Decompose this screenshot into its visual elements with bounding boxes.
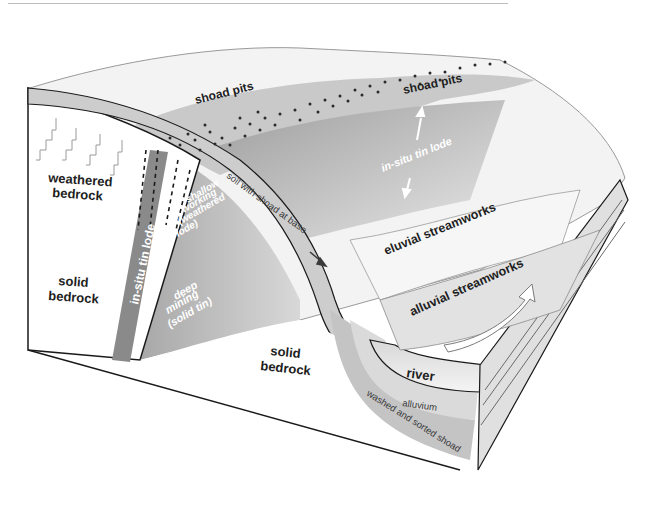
svg-text:solid: solid — [58, 273, 89, 290]
svg-text:solid: solid — [270, 343, 302, 361]
tin-deposit-block-diagram: weathered bedrock solid bedrock in-situ … — [0, 0, 655, 517]
